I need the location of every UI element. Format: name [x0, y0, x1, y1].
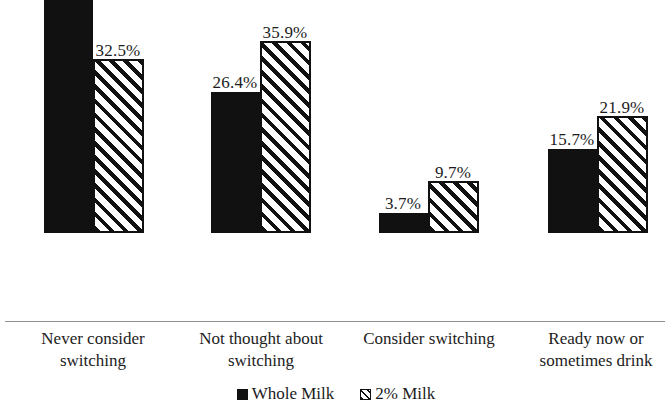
bar-value-label: 35.9%	[263, 23, 308, 42]
solid-square-icon	[237, 389, 248, 400]
bar-chart: 54.2% 32.5% 26.4% 35.9% 3.7% 9.7%	[0, 0, 672, 410]
bar-group-never-consider-switching: 54.2% 32.5%	[43, 0, 144, 233]
bar-2-percent-milk-consider-switching[interactable]: 9.7%	[428, 181, 479, 233]
bar-whole-milk-never-consider-switching[interactable]: 54.2%	[44, 0, 93, 233]
legend-label-2-percent-milk: 2% Milk	[375, 384, 435, 404]
bar-value-label: 3.7%	[385, 194, 421, 213]
x-axis-label-line-2: sometimes drink	[520, 350, 672, 372]
x-axis-label-line-1: Ready now or	[520, 328, 672, 350]
x-axis-baseline	[5, 321, 665, 322]
x-axis-label-line-1: Not thought about	[190, 328, 332, 350]
hatched-square-icon	[360, 389, 371, 400]
x-axis-label-ready-now-or-sometimes-drink: Ready now or sometimes drink	[520, 328, 672, 372]
x-axis-label-line-2: switching	[190, 350, 332, 372]
x-axis-label-never-consider-switching: Never consider switching	[28, 328, 158, 372]
bar-2-percent-milk-never-consider-switching[interactable]: 32.5%	[93, 59, 144, 233]
bar-whole-milk-not-thought-about-switching[interactable]: 26.4%	[211, 92, 260, 233]
chart-legend: Whole Milk 2% Milk	[0, 384, 672, 404]
x-axis-category-labels: Never consider switching Not thought abo…	[0, 328, 672, 376]
bar-2-percent-milk-not-thought-about-switching[interactable]: 35.9%	[260, 41, 311, 233]
x-axis-label-line-2: switching	[28, 350, 158, 372]
bar-value-label: 26.4%	[213, 73, 258, 92]
x-axis-label-consider-switching: Consider switching	[352, 328, 506, 350]
bar-whole-milk-ready-now-or-sometimes-drink[interactable]: 15.7%	[548, 149, 597, 233]
x-axis-label-line-1: Never consider	[28, 328, 158, 350]
legend-item-whole-milk[interactable]: Whole Milk	[237, 384, 335, 404]
bar-value-label: 21.9%	[600, 98, 645, 117]
bar-group-ready-now-or-sometimes-drink: 15.7% 21.9%	[547, 0, 648, 233]
x-axis-label-line-1: Consider switching	[352, 328, 506, 350]
bar-group-consider-switching: 3.7% 9.7%	[378, 0, 479, 233]
bar-whole-milk-consider-switching[interactable]: 3.7%	[379, 213, 428, 233]
bar-value-label: 32.5%	[96, 41, 141, 60]
bar-value-label: 15.7%	[550, 130, 595, 149]
plot-area: 54.2% 32.5% 26.4% 35.9% 3.7% 9.7%	[0, 0, 672, 322]
bar-value-label: 9.7%	[435, 163, 471, 182]
x-axis-label-not-thought-about-switching: Not thought about switching	[190, 328, 332, 372]
bar-group-not-thought-about-switching: 26.4% 35.9%	[210, 0, 311, 233]
legend-label-whole-milk: Whole Milk	[252, 384, 335, 404]
bar-2-percent-milk-ready-now-or-sometimes-drink[interactable]: 21.9%	[597, 116, 648, 233]
legend-item-2-percent-milk[interactable]: 2% Milk	[360, 384, 435, 404]
